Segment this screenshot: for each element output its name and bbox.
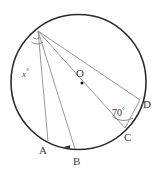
main-circle — [11, 15, 146, 150]
point-label-a: A — [39, 145, 47, 156]
point-label-c: C — [124, 132, 131, 143]
apex-arc-inner — [33, 38, 40, 39]
angle-label-70: 70° — [112, 107, 125, 118]
center-label-o: O — [76, 68, 84, 79]
angle-label-70-value: 70 — [112, 107, 122, 118]
segment-p-to-d — [38, 31, 140, 100]
center-point-dot — [81, 82, 84, 85]
point-label-d: D — [143, 99, 151, 110]
point-label-b: B — [73, 156, 80, 167]
angle-label-x-degree-symbol: ° — [26, 67, 29, 75]
geometry-canvas — [0, 0, 164, 178]
angle-label-x: x° — [22, 68, 29, 79]
circle-geometry-figure: O A B C D x° 70° — [0, 0, 164, 178]
angle-label-70-degree-symbol: ° — [122, 106, 125, 114]
